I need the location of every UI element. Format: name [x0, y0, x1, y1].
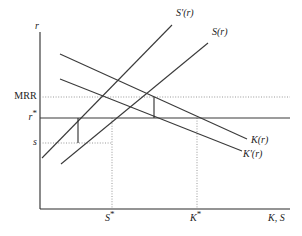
y-axis-label: r	[35, 21, 39, 31]
x-axis-label: K, S	[268, 213, 285, 223]
figure-canvas: r K, S MRR r* s S* K* S'(r) S(r) K(r) K'…	[0, 0, 302, 236]
y-tick-label-s: s	[33, 137, 37, 147]
x-tick-label-s-star: S*	[105, 213, 115, 223]
x-tick-label-k-star: K*	[190, 213, 201, 223]
curves-group	[42, 25, 247, 164]
curve-sr	[61, 43, 208, 164]
y-tick-label-r-star: r*	[29, 112, 37, 122]
curve-label-s-prime-r: S'(r)	[176, 8, 194, 18]
curve-kr	[60, 54, 247, 139]
marker-segments-group	[78, 97, 154, 143]
curve-sr	[42, 25, 172, 158]
curve-label-s-r: S(r)	[212, 27, 228, 37]
curve-label-k-r: K(r)	[251, 135, 268, 145]
diagram-svg	[0, 0, 302, 236]
y-tick-label-mrr: MRR	[14, 91, 37, 101]
curve-label-k-prime-r: K'(r)	[243, 149, 262, 159]
